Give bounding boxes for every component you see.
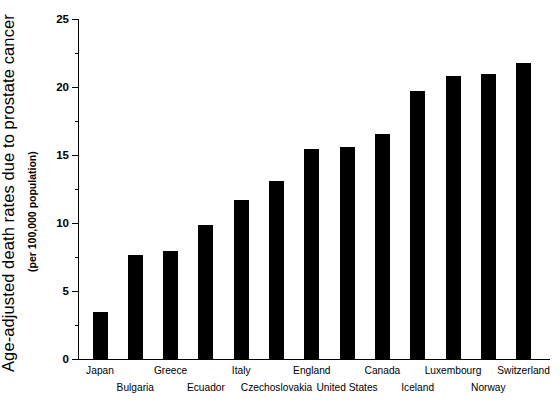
y-tick-label: 25	[56, 13, 69, 25]
y-tick-mark	[72, 223, 78, 224]
x-tick-label: Greece	[154, 366, 187, 376]
x-tick-label: Ecuador	[187, 383, 225, 393]
bar	[410, 91, 425, 359]
x-tick-label: United States	[317, 383, 378, 393]
y-tick-label: 15	[56, 149, 69, 161]
y-axis-title-container: Age-adjusted death rates due to prostate…	[0, 0, 26, 375]
bar	[198, 225, 213, 360]
y-tick-mark	[72, 19, 78, 20]
x-tick-label: Iceland	[401, 383, 434, 393]
x-tick-label: Bulgaria	[117, 383, 154, 393]
bar	[516, 63, 531, 359]
bar	[446, 76, 461, 359]
x-tick-label: Canada	[365, 366, 401, 376]
y-tick-label: 10	[56, 217, 69, 229]
x-tick-label: Italy	[232, 366, 251, 376]
chart-figure: Age-adjusted death rates due to prostate…	[0, 0, 560, 403]
bar	[93, 312, 108, 360]
bar	[128, 255, 143, 360]
y-axis-title: Age-adjusted death rates due to prostate…	[0, 14, 17, 372]
x-tick-label: Luxembourg	[425, 366, 482, 376]
bar	[269, 181, 284, 359]
y-tick-mark	[72, 291, 78, 292]
x-tick-label: Switzerland	[497, 366, 550, 376]
y-tick-label: 0	[63, 353, 69, 365]
y-tick-label: 20	[56, 81, 69, 93]
bar	[340, 147, 355, 359]
y-tick-mark-minor	[75, 121, 79, 122]
x-tick-label: Japan	[86, 366, 114, 376]
y-tick-mark-minor	[75, 189, 79, 190]
y-tick-mark-minor	[75, 325, 79, 326]
bar	[481, 74, 496, 360]
bar	[163, 251, 178, 360]
bar	[375, 134, 390, 360]
x-tick-label: Norway	[471, 383, 506, 393]
y-axis-subtitle-container: (per 100,000 population)	[27, 0, 49, 375]
bar	[304, 149, 319, 360]
y-tick-mark-minor	[75, 53, 79, 54]
x-tick-label: England	[293, 366, 330, 376]
y-axis-line	[78, 19, 79, 360]
bar	[234, 200, 249, 359]
y-tick-mark	[72, 155, 78, 156]
x-tick-label: Czechoslovakia	[241, 383, 312, 393]
y-tick-mark-minor	[75, 257, 79, 258]
y-tick-mark	[72, 87, 78, 88]
x-axis-labels: JapanBulgariaGreeceEcuadorItalyCzechoslo…	[78, 361, 560, 403]
y-axis-subtitle: (per 100,000 population)	[27, 151, 38, 272]
plot-area: 0510152025	[78, 19, 550, 360]
y-tick-label: 5	[63, 285, 69, 297]
